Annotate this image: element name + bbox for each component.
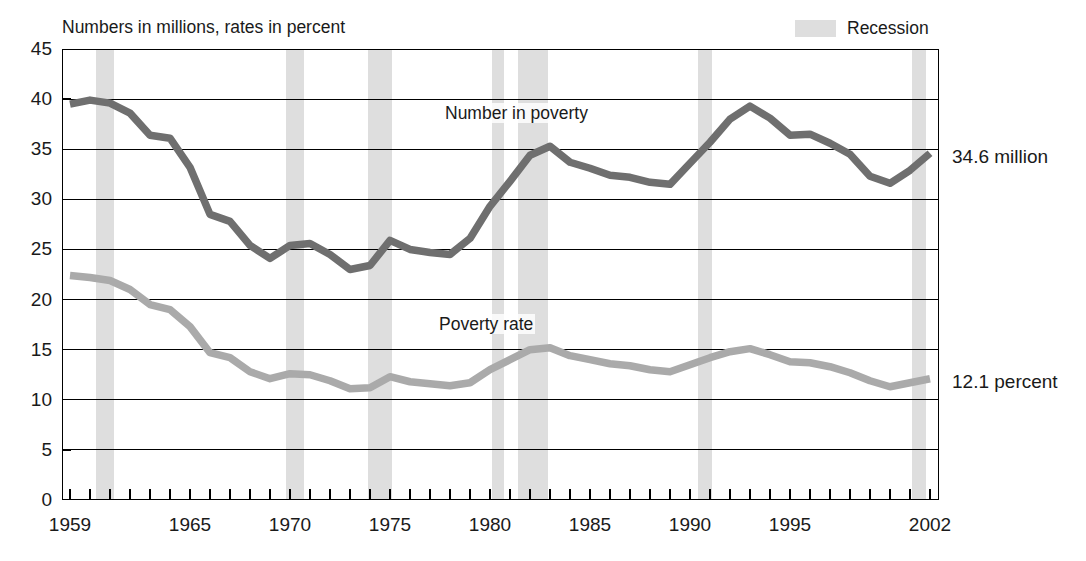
end-value-number: 34.6 million xyxy=(952,146,1048,168)
poverty-chart: Numbers in millions, rates in percent Re… xyxy=(0,0,1086,561)
y-tick-label-25: 25 xyxy=(8,238,52,260)
y-minor-ticks xyxy=(62,49,71,500)
x-tick-label-1970: 1970 xyxy=(269,513,311,536)
y-tick-label-10: 10 xyxy=(8,389,52,411)
x-tick-label-1985: 1985 xyxy=(569,513,611,536)
y-tick-label-30: 30 xyxy=(8,188,52,210)
chart-subtitle: Numbers in millions, rates in percent xyxy=(62,17,345,37)
number-in-poverty-label: Number in poverty xyxy=(443,103,590,123)
recession-band-0 xyxy=(96,49,114,500)
x-tick-label-1995: 1995 xyxy=(769,513,811,536)
recession-band-2 xyxy=(368,49,392,500)
chart-legend: Recession xyxy=(795,18,929,38)
y-tick-label-0: 0 xyxy=(8,489,52,511)
x-tick-label-2002: 2002 xyxy=(909,513,951,536)
recession-band-6 xyxy=(912,49,926,500)
y-tick-label-5: 5 xyxy=(8,439,52,461)
y-axis-tick-labels: 051015202530354045 xyxy=(0,49,52,500)
y-tick-label-20: 20 xyxy=(8,289,52,311)
x-tick-label-1959: 1959 xyxy=(49,513,91,536)
y-tick-label-45: 45 xyxy=(8,38,52,60)
x-axis-tick-labels: 195919651970197519801985199019952002 xyxy=(0,513,1086,543)
recession-band-5 xyxy=(698,49,712,500)
x-tick-label-1965: 1965 xyxy=(169,513,211,536)
end-value-rate: 12.1 percent xyxy=(952,371,1058,393)
recession-legend-label: Recession xyxy=(847,18,929,38)
poverty-rate-label: Poverty rate xyxy=(437,314,535,334)
y-tick-label-15: 15 xyxy=(8,339,52,361)
x-tick-label-1990: 1990 xyxy=(669,513,711,536)
x-tick-label-1975: 1975 xyxy=(369,513,411,536)
y-tick-label-40: 40 xyxy=(8,88,52,110)
x-tick-label-1980: 1980 xyxy=(469,513,511,536)
plot-area: Number in poverty Poverty rate xyxy=(62,49,939,500)
y-tick-label-35: 35 xyxy=(8,138,52,160)
recession-legend-swatch xyxy=(795,20,836,37)
recession-band-1 xyxy=(286,49,304,500)
